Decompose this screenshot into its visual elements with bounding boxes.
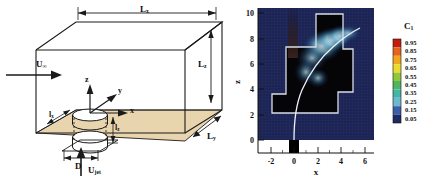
x-tick-label-1: 0: [292, 157, 296, 166]
lx-arrow-right: [208, 10, 216, 16]
colorbar-swatch-7: [393, 98, 401, 106]
colorbar-swatch-9: [393, 115, 401, 123]
colorbar: [393, 39, 401, 123]
axis-z-head: [87, 84, 94, 94]
y-axis-label: z: [232, 80, 242, 84]
colorbar-tick-label-6: 0.35: [405, 89, 417, 96]
label-U-infinity: U∞: [36, 60, 47, 70]
contour-field: [258, 8, 374, 140]
label-D: D: [75, 162, 82, 171]
x-axis-label: x: [314, 167, 319, 177]
colorbar-swatch-4: [393, 73, 401, 81]
colorbar-swatch-6: [393, 89, 401, 97]
colorbar-tick-label-5: 0.45: [405, 81, 417, 88]
y-tick-label-3: 6: [250, 60, 254, 69]
ly-arrow-a: [214, 116, 222, 122]
x-tick-label-0: -2: [268, 157, 275, 166]
colorbar-tick-label-9: 0.05: [405, 115, 417, 122]
jet-shaft-shadow: [288, 8, 298, 58]
colorbar-tick-label-4: 0.55: [405, 73, 417, 80]
y-tick-label-1: 2: [250, 111, 254, 120]
jet-in-crossflow-domain-schematic: Lx Lz Ly U∞ Ujet D lx lz z y x: [0, 0, 226, 179]
colorbar-tick-label-8: 0.15: [405, 106, 417, 113]
y-tick-label-5: 10: [246, 9, 254, 18]
colorbar-tick-label-2: 0.75: [405, 56, 417, 63]
label-lx-small: lx: [49, 111, 54, 119]
colorbar-swatch-1: [393, 47, 401, 55]
concentration-contour-plot: -2 0 2 4 6 0 2 4 6 8 10 x z: [226, 0, 448, 179]
colorbar-swatch-8: [393, 106, 401, 114]
colorbar-tick-label-3: 0.65: [405, 64, 417, 71]
colorbar-title: C1: [404, 22, 413, 32]
schematic-drawing: [0, 0, 226, 179]
lx-arrow-left: [78, 10, 86, 16]
label-Lx: Lx: [140, 5, 149, 15]
label-Ly: Ly: [207, 132, 216, 142]
label-axis-x: x: [130, 107, 134, 115]
colorbar-tick-label-7: 0.25: [405, 98, 417, 105]
plume-wake-3: [307, 68, 329, 88]
contour-plot-drawing: -2 0 2 4 6 0 2 4 6 8 10 x z: [226, 0, 448, 179]
x-tick-label-2: 2: [316, 157, 320, 166]
label-axis-y: y: [118, 87, 122, 95]
colorbar-tick-label-1: 0.85: [405, 47, 417, 54]
y-tick-label-2: 4: [250, 85, 254, 94]
box-top-face: [36, 22, 222, 50]
d-arrow-left: [64, 156, 71, 161]
d-arrow-right: [91, 156, 98, 161]
colorbar-swatch-5: [393, 81, 401, 89]
y-tick-label-4: 8: [250, 35, 254, 44]
colorbar-tick-label-0: 0.95: [405, 39, 417, 46]
colorbar-swatch-0: [393, 39, 401, 47]
x-tick-label-4: 6: [363, 157, 367, 166]
colorbar-swatch-3: [393, 64, 401, 72]
lz-arrow-bottom: [208, 95, 213, 103]
uinf-arrow-head: [51, 71, 62, 80]
x-tick-label-3: 4: [339, 157, 343, 166]
label-axis-z: z: [85, 76, 89, 84]
colorbar-swatch-2: [393, 56, 401, 64]
y-tick-label-0: 0: [250, 136, 254, 145]
label-U-jet: Ujet: [88, 166, 101, 176]
x-tick-marks: [271, 147, 365, 153]
figure-root: Lx Lz Ly U∞ Ujet D lx lz z y x: [0, 0, 448, 179]
label-lz-small: lz: [115, 124, 120, 132]
label-Lz: Lz: [198, 60, 207, 70]
plume-tail: [334, 24, 362, 42]
